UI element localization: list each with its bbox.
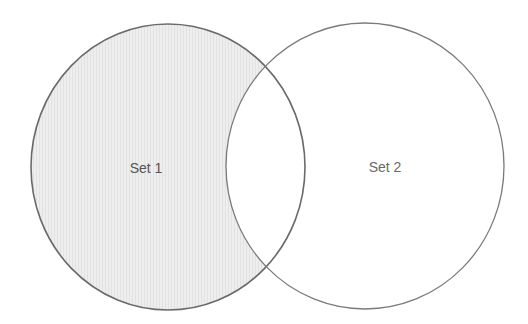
set-1-label: Set 1 xyxy=(130,160,163,176)
set-2-label: Set 2 xyxy=(369,159,402,175)
venn-diagram: Set 1 Set 2 xyxy=(0,0,528,324)
